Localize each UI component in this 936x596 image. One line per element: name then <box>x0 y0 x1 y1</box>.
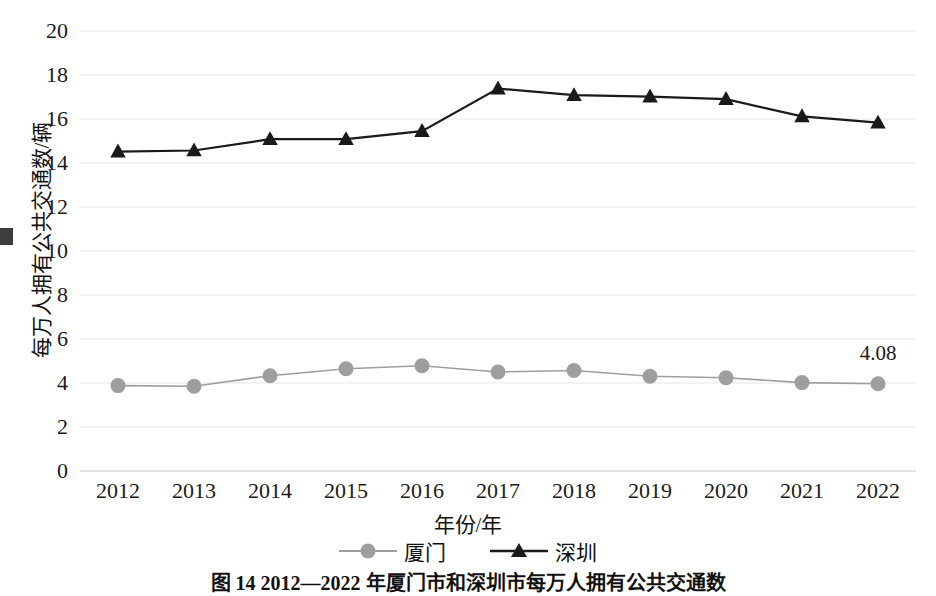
data-point-marker <box>567 363 582 378</box>
data-point-marker <box>339 361 354 376</box>
circle-marker-icon <box>339 542 397 560</box>
x-tick-label: 2016 <box>382 478 462 504</box>
data-point-marker <box>719 370 734 385</box>
data-point-marker <box>263 368 278 383</box>
series-xiamen <box>111 358 886 394</box>
data-point-marker <box>871 376 886 391</box>
legend-label-xiamen: 厦门 <box>404 536 446 566</box>
data-point-marker <box>415 358 430 373</box>
data-point-marker <box>111 378 126 393</box>
legend-label-shenzhen: 深圳 <box>555 536 597 566</box>
legend-item-xiamen[interactable]: 厦门 <box>339 536 446 566</box>
x-tick-label: 2013 <box>154 478 234 504</box>
data-point-marker <box>795 375 810 390</box>
series-line <box>118 89 878 152</box>
x-tick-label: 2018 <box>534 478 614 504</box>
x-tick-label: 2020 <box>686 478 766 504</box>
data-point-marker <box>490 81 506 95</box>
chart-legend: 厦门 深圳 <box>0 536 936 566</box>
data-label-4-08: 4.08 <box>860 341 897 366</box>
x-tick-label: 2022 <box>838 478 918 504</box>
x-tick-label: 2017 <box>458 478 538 504</box>
x-tick-label: 2012 <box>78 478 158 504</box>
data-point-marker <box>187 379 202 394</box>
x-axis-title: 年份/年 <box>0 508 936 538</box>
data-point-marker <box>414 123 430 137</box>
figure-caption: 图 14 2012—2022 年厦门市和深圳市每万人拥有公共交通数 <box>0 567 936 596</box>
x-tick-label: 2021 <box>762 478 842 504</box>
x-tick-label: 2015 <box>306 478 386 504</box>
triangle-marker-icon <box>490 542 548 560</box>
legend-item-shenzhen[interactable]: 深圳 <box>490 536 597 566</box>
data-point-marker <box>491 365 506 380</box>
data-point-marker <box>643 369 658 384</box>
x-tick-label: 2014 <box>230 478 310 504</box>
x-tick-label: 2019 <box>610 478 690 504</box>
